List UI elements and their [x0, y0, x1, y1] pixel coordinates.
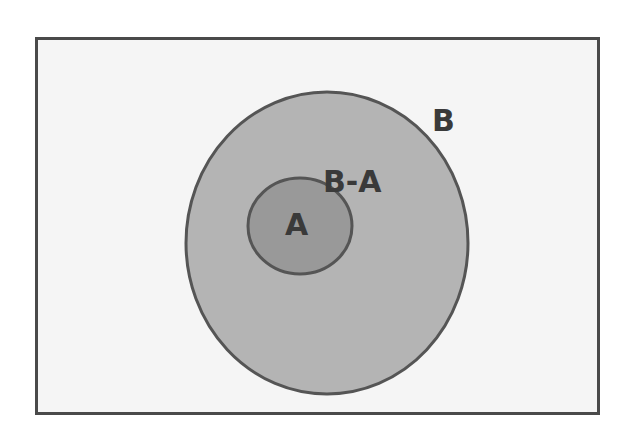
label-set-b: B — [432, 103, 455, 138]
label-b-minus-a: B-A — [323, 164, 382, 199]
label-set-a: A — [285, 207, 308, 242]
venn-diagram — [0, 0, 627, 435]
